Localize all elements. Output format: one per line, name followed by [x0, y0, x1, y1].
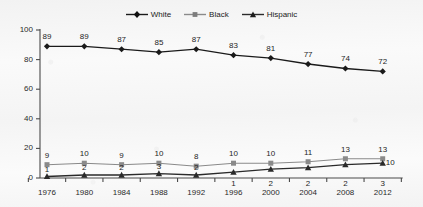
data-label-hispanic-2012: 3 — [372, 180, 394, 188]
data-point-white-1976 — [44, 43, 50, 49]
x-axis-tick-1996: 1996 — [214, 189, 254, 197]
y-axis-tick-40: 40 — [7, 115, 33, 123]
x-axis-tick-1988: 1988 — [139, 189, 179, 197]
data-point-black-1996 — [231, 161, 236, 166]
data-label-hispanic-1996: 1 — [223, 180, 245, 188]
chart-plot-area — [0, 0, 423, 207]
data-label-black-1984: 9 — [111, 152, 133, 160]
data-point-black-2008 — [343, 156, 348, 161]
x-axis-tick-1980: 1980 — [64, 189, 104, 197]
series-line-white — [47, 46, 383, 71]
x-axis-tick-2012: 2012 — [363, 189, 403, 197]
data-label-white-1988: 85 — [148, 39, 170, 47]
data-label-black-1996: 10 — [223, 150, 245, 158]
data-label-white-1980: 89 — [73, 33, 95, 41]
data-label-hispanic-1980: 2 — [73, 164, 95, 172]
chart-container: White Black Hispanic 1008060402001976198… — [0, 0, 423, 207]
data-point-white-1992 — [193, 46, 199, 52]
x-axis-tick-2004: 2004 — [288, 189, 328, 197]
data-label-black-2000: 10 — [260, 150, 282, 158]
y-axis-tick-60: 60 — [7, 85, 33, 93]
data-label-black-2008: 13 — [334, 146, 356, 154]
data-label-white-1992: 87 — [185, 36, 207, 44]
y-axis-tick-80: 80 — [7, 56, 33, 64]
data-label-black-1980: 10 — [73, 150, 95, 158]
data-point-white-2008 — [342, 65, 348, 71]
data-label-hispanic-end: 10 — [386, 159, 400, 167]
data-label-hispanic-2004: 2 — [297, 180, 319, 188]
data-label-white-1984: 87 — [111, 36, 133, 44]
data-label-white-2012: 72 — [372, 58, 394, 66]
data-point-black-2000 — [268, 161, 273, 166]
data-label-white-1976: 89 — [36, 33, 58, 41]
x-axis-tick-1992: 1992 — [176, 189, 216, 197]
data-point-white-2000 — [268, 55, 274, 61]
data-point-white-1996 — [230, 52, 236, 58]
data-point-white-2004 — [305, 61, 311, 67]
data-label-black-2004: 11 — [297, 149, 319, 157]
data-point-white-2012 — [380, 68, 386, 74]
x-axis-tick-2000: 2000 — [251, 189, 291, 197]
data-label-white-2008: 74 — [334, 55, 356, 63]
data-label-hispanic-2000: 2 — [260, 180, 282, 188]
data-label-hispanic-1992: 2 — [185, 164, 207, 172]
data-label-hispanic-2008: 2 — [334, 180, 356, 188]
y-axis-tick-100: 100 — [7, 26, 33, 34]
x-axis-tick-1976: 1976 — [27, 189, 67, 197]
y-axis-tick-20: 20 — [7, 144, 33, 152]
x-axis-tick-1984: 1984 — [102, 189, 142, 197]
data-label-hispanic-1976: 1 — [36, 166, 58, 174]
data-point-black-2004 — [306, 159, 311, 164]
data-point-white-1988 — [156, 49, 162, 55]
y-axis-tick-0: 0 — [7, 174, 33, 182]
data-label-hispanic-1984: 2 — [111, 164, 133, 172]
data-label-black-2012: 13 — [372, 146, 394, 154]
data-label-white-2004: 77 — [297, 51, 319, 59]
data-label-hispanic-1988: 3 — [148, 163, 170, 171]
data-point-white-1984 — [119, 46, 125, 52]
data-label-white-1996: 83 — [223, 42, 245, 50]
data-label-black-1992: 8 — [185, 153, 207, 161]
data-point-white-1980 — [81, 43, 87, 49]
x-axis-tick-2008: 2008 — [325, 189, 365, 197]
data-label-black-1988: 10 — [148, 150, 170, 158]
data-label-black-1976: 9 — [36, 152, 58, 160]
data-label-white-2000: 81 — [260, 45, 282, 53]
